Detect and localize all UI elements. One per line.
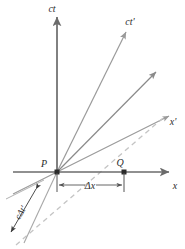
event-label-q: Q <box>116 157 124 168</box>
ct-prime-axis-label: ct' <box>125 16 135 27</box>
delta-x-label: Δx <box>84 180 96 191</box>
worldline <box>57 72 156 172</box>
x-axis-label: x <box>172 180 178 191</box>
ct-prime-axis <box>57 32 126 172</box>
c-delta-t-prime-guide <box>6 180 44 199</box>
diagram-canvas: ct ct' x x' P Q Δx cΔt' <box>0 0 185 249</box>
ct-prime-axis-lower <box>24 172 57 243</box>
ct-axis-label: ct <box>48 3 55 14</box>
event-label-p: P <box>40 158 47 169</box>
spacetime-diagram: ct ct' x x' P Q Δx cΔt' <box>0 0 185 249</box>
x-prime-axis-label: x' <box>169 116 177 127</box>
